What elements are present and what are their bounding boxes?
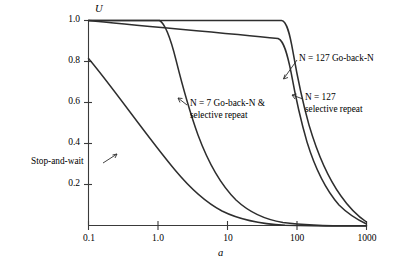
y-tick-label-0.8: 0.8 [52, 55, 80, 65]
leader-stop-and-wait [103, 154, 117, 163]
x-tick-label-10: 10 [213, 233, 243, 243]
y-tick-label-0.4: 0.4 [52, 137, 80, 147]
curve-n127-selective-repeat [89, 21, 367, 223]
annotation-n127-sr-line2: selective repeat [305, 104, 363, 114]
y-tick-label-1.0: 1.0 [52, 14, 80, 24]
utilization-vs-a-chart [0, 0, 397, 272]
y-tick-label-0.2: 0.2 [52, 178, 80, 188]
x-tick-label-0.1: 0.1 [74, 233, 104, 243]
curve-stop-and-wait [89, 59, 367, 227]
annotation-n127-sr-line1: N = 127 [305, 92, 336, 102]
x-tick-label-100: 100 [282, 233, 312, 243]
leader-n127-gbn [284, 60, 298, 79]
chart-figure: U a 0.2 0.4 0.6 0.8 1.0 0.1 1.0 10 100 1… [0, 0, 397, 272]
x-tick-label-1000: 1000 [351, 233, 383, 243]
curve-n7-go-back-n-selective-repeat [89, 21, 367, 226]
x-tick-label-1.0: 1.0 [143, 233, 173, 243]
annotation-n7-line2: selective repeat [190, 110, 248, 120]
x-axis-title: a [218, 247, 223, 258]
y-axis-title: U [95, 3, 103, 14]
annotation-n127-go-back-n: N = 127 Go-back-N [299, 53, 374, 63]
annotation-n7-line1: N = 7 Go-back-N & [190, 98, 265, 108]
curve-n127-go-back-n [89, 21, 367, 225]
annotation-stop-and-wait: Stop-and-wait [31, 156, 84, 166]
y-tick-label-0.6: 0.6 [52, 96, 80, 106]
